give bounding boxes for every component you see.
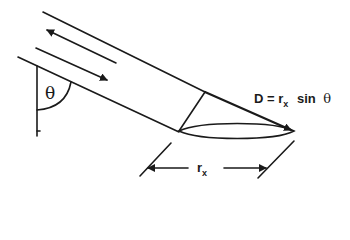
equation-lhs: D = r <box>254 91 283 106</box>
tube-bottom-edge <box>18 57 179 132</box>
ellipse-cross-section <box>179 124 294 139</box>
equation-subscript: x <box>283 99 288 109</box>
theta-label: θ <box>45 83 55 103</box>
equation-sin: sin <box>297 91 316 106</box>
dimension-label: rx <box>197 160 207 178</box>
equation-theta: θ <box>323 91 331 106</box>
dimension-tick-left <box>140 143 171 176</box>
equation-label: D = rx sin θ <box>254 91 331 109</box>
dimension-subscript: x <box>202 168 207 178</box>
dimension-tick-right <box>258 141 294 178</box>
